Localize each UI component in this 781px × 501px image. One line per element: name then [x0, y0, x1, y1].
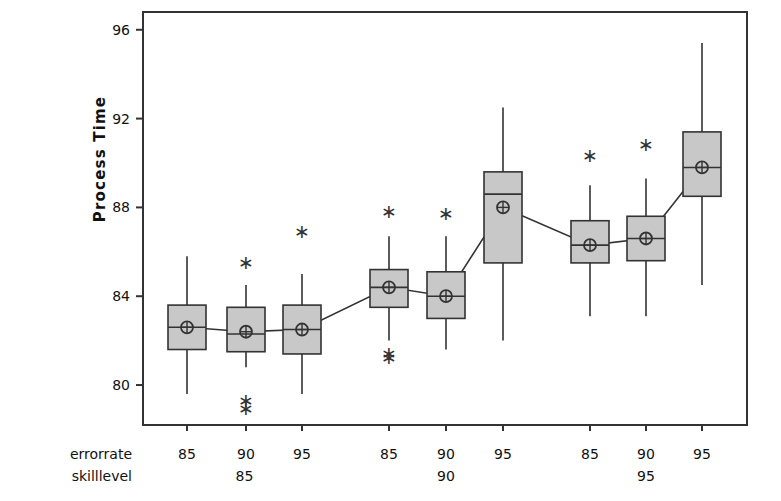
outlier-asterisk: ∗ — [381, 346, 397, 368]
x-axis-row-label-skilllevel: skilllevel — [72, 468, 132, 484]
x-tick-label-skilllevel: 95 — [637, 468, 655, 484]
outlier-asterisk: ∗ — [238, 251, 254, 273]
x-tick-label-skilllevel: 90 — [437, 468, 455, 484]
boxplot-figure: Process Time 8084889296∗∗∗∗∗∗∗∗∗∗errorra… — [0, 0, 781, 501]
x-tick-label-skilllevel: 85 — [236, 468, 254, 484]
x-tick-label-errorrate: 90 — [437, 446, 455, 462]
outlier-asterisk: ∗ — [638, 133, 654, 155]
x-tick-label-errorrate: 90 — [637, 446, 655, 462]
box-plot-item: ∗∗∗ — [227, 251, 265, 420]
box-plot-item: ∗ — [427, 202, 465, 349]
y-tick-label: 92 — [112, 111, 130, 127]
plot-canvas: 8084889296∗∗∗∗∗∗∗∗∗∗errorrate85909585909… — [0, 0, 781, 501]
outlier-asterisk: ∗ — [381, 200, 397, 222]
x-axis-row-label-errorrate: errorrate — [70, 446, 132, 462]
box-plot-item: ∗∗∗ — [370, 200, 408, 369]
x-tick-label-errorrate: 90 — [237, 446, 255, 462]
x-tick-label-errorrate: 85 — [380, 446, 398, 462]
box-iqr — [484, 172, 522, 263]
y-tick-label: 84 — [112, 288, 130, 304]
box-plot-item: ∗ — [283, 220, 321, 394]
box-plot-item: ∗ — [627, 133, 665, 316]
x-tick-label-errorrate: 85 — [581, 446, 599, 462]
x-tick-label-errorrate: 95 — [693, 446, 711, 462]
box-plot-item: ∗ — [571, 144, 609, 316]
x-tick-label-errorrate: 95 — [293, 446, 311, 462]
outlier-asterisk: ∗ — [582, 144, 598, 166]
y-tick-label: 80 — [112, 377, 130, 393]
y-tick-label: 88 — [112, 199, 130, 215]
box-plot-item — [484, 107, 522, 340]
outlier-asterisk: ∗ — [438, 202, 454, 224]
outlier-asterisk: ∗ — [238, 397, 254, 419]
x-tick-label-errorrate: 85 — [178, 446, 196, 462]
box-plot-item — [683, 43, 721, 285]
outlier-asterisk: ∗ — [294, 220, 310, 242]
y-tick-label: 96 — [112, 22, 130, 38]
x-tick-label-errorrate: 95 — [494, 446, 512, 462]
box-plot-item — [168, 256, 206, 394]
